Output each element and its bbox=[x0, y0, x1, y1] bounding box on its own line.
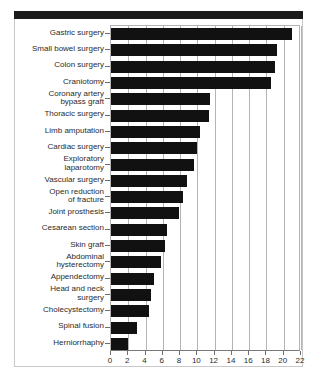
gridline-8 bbox=[180, 26, 181, 350]
x-axis-tick bbox=[214, 351, 215, 355]
gridline-2 bbox=[128, 26, 129, 350]
y-axis-label: Herniorrhaphy bbox=[53, 339, 104, 348]
bar-row bbox=[111, 61, 301, 73]
x-axis-tick-label: 8 bbox=[177, 356, 181, 365]
y-axis-label: Abdominal hysterectomy bbox=[56, 253, 104, 270]
x-axis-tick-label: 2 bbox=[125, 356, 129, 365]
x-axis-tick bbox=[196, 351, 197, 355]
bar bbox=[111, 126, 200, 138]
bar-row bbox=[111, 273, 301, 285]
gridline-6 bbox=[163, 26, 164, 350]
y-axis-label: Coronary artery bypass graft bbox=[48, 90, 104, 107]
bar bbox=[111, 61, 275, 73]
x-axis-tick bbox=[110, 351, 111, 355]
y-axis-label: Thoracic surgery bbox=[44, 110, 104, 119]
y-axis-label: Colon surgery bbox=[54, 61, 104, 70]
bar-row bbox=[111, 338, 301, 350]
y-axis-label: Vascular surgery bbox=[45, 176, 104, 185]
x-axis-tick-label: 18 bbox=[261, 356, 270, 365]
gridline-22 bbox=[301, 26, 302, 350]
gridline-14 bbox=[232, 26, 233, 350]
x-axis-tick-label: 22 bbox=[296, 356, 305, 365]
x-axis-tick bbox=[162, 351, 163, 355]
bar-row bbox=[111, 305, 301, 317]
x-axis-tick bbox=[231, 351, 232, 355]
bar bbox=[111, 28, 292, 40]
bar bbox=[111, 240, 165, 252]
x-axis-tick bbox=[127, 351, 128, 355]
header-band bbox=[14, 11, 303, 19]
bar bbox=[111, 256, 161, 268]
y-axis-label: Head and neck surgery bbox=[50, 285, 104, 302]
x-axis-tick bbox=[179, 351, 180, 355]
plot-area bbox=[110, 25, 300, 351]
y-axis-label: Cholecystectomy bbox=[43, 306, 104, 315]
y-axis-label: Small bowel surgery bbox=[32, 45, 104, 54]
chart-figure: Gastric surgerySmall bowel surgeryColon … bbox=[0, 0, 317, 379]
y-axis-label: Joint prosthesis bbox=[48, 208, 104, 217]
bar bbox=[111, 273, 154, 285]
y-axis-label: Appendectomy bbox=[51, 273, 104, 282]
bar bbox=[111, 191, 183, 203]
bar-row bbox=[111, 44, 301, 56]
bar-row bbox=[111, 240, 301, 252]
x-axis-tick-label: 16 bbox=[244, 356, 253, 365]
bar bbox=[111, 224, 167, 236]
bar bbox=[111, 338, 128, 350]
x-axis-tick-label: 14 bbox=[226, 356, 235, 365]
bar-row bbox=[111, 175, 301, 187]
y-axis-label: Open reduction of fracture bbox=[49, 188, 104, 205]
bar bbox=[111, 77, 271, 89]
y-axis-label: Spinal fusion bbox=[58, 322, 104, 331]
x-axis-tick bbox=[145, 351, 146, 355]
gridline-16 bbox=[249, 26, 250, 350]
bar-row bbox=[111, 28, 301, 40]
x-axis-tick-label: 6 bbox=[160, 356, 164, 365]
bar bbox=[111, 322, 137, 334]
bar bbox=[111, 142, 197, 154]
x-axis-tick bbox=[300, 351, 301, 355]
y-axis-label: Limb amputation bbox=[45, 127, 104, 136]
bar bbox=[111, 175, 187, 187]
bar bbox=[111, 110, 209, 122]
bar-row bbox=[111, 77, 301, 89]
bar-row bbox=[111, 159, 301, 171]
gridline-18 bbox=[266, 26, 267, 350]
y-axis-label: Cardiac surgery bbox=[48, 143, 104, 152]
bar bbox=[111, 305, 149, 317]
y-axis-label: Exploratory laparotomy bbox=[64, 155, 104, 172]
x-axis-tick-label: 0 bbox=[108, 356, 112, 365]
y-axis-label: Craniotomy bbox=[63, 78, 104, 87]
bar-row bbox=[111, 142, 301, 154]
x-axis-tick-label: 20 bbox=[278, 356, 287, 365]
bar-row bbox=[111, 191, 301, 203]
bar bbox=[111, 207, 179, 219]
bar bbox=[111, 159, 194, 171]
bar-row bbox=[111, 207, 301, 219]
gridline-4 bbox=[146, 26, 147, 350]
bar-row bbox=[111, 224, 301, 236]
bar bbox=[111, 93, 210, 105]
bar bbox=[111, 289, 151, 301]
bar-row bbox=[111, 93, 301, 105]
y-axis-label: Gastric surgery bbox=[50, 29, 104, 38]
gridline-10 bbox=[197, 26, 198, 350]
x-axis-tick bbox=[265, 351, 266, 355]
bar-row bbox=[111, 126, 301, 138]
x-axis-tick-label: 12 bbox=[209, 356, 218, 365]
gridline-12 bbox=[215, 26, 216, 350]
bar-row bbox=[111, 110, 301, 122]
y-axis-label: Skin graft bbox=[70, 241, 104, 250]
gridline-20 bbox=[284, 26, 285, 350]
bar bbox=[111, 44, 277, 56]
x-axis-tick bbox=[283, 351, 284, 355]
y-axis-labels: Gastric surgerySmall bowel surgeryColon … bbox=[0, 25, 104, 351]
x-axis-tick-label: 4 bbox=[142, 356, 146, 365]
bar-row bbox=[111, 256, 301, 268]
y-axis-label: Cesarean section bbox=[42, 224, 104, 233]
x-axis-tick-label: 10 bbox=[192, 356, 201, 365]
bar-row bbox=[111, 289, 301, 301]
x-axis-tick bbox=[248, 351, 249, 355]
bar-row bbox=[111, 322, 301, 334]
